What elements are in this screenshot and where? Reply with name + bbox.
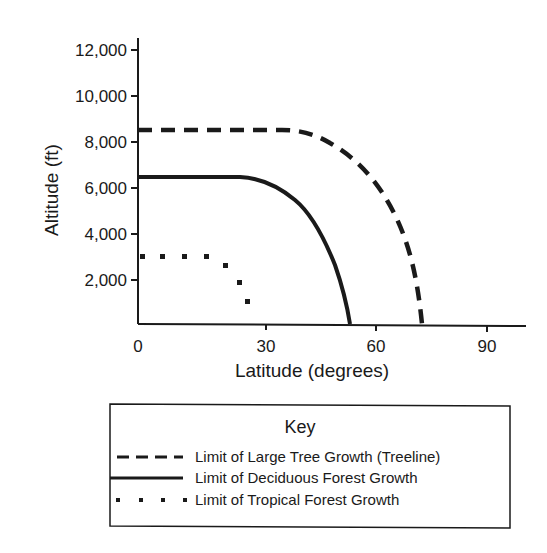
x-tick-label: 90 xyxy=(478,337,497,356)
series-tropical xyxy=(140,254,250,304)
x-tick-label: 0 xyxy=(133,337,142,356)
legend-label-treeline: Limit of Large Tree Growth (Treeline) xyxy=(195,448,440,465)
x-tick-label: 30 xyxy=(257,337,276,356)
x-axis-title: Latitude (degrees) xyxy=(235,360,389,381)
series-deciduous xyxy=(138,177,350,324)
legend-label-deciduous: Limit of Deciduous Forest Growth xyxy=(195,469,418,486)
series-treeline xyxy=(138,130,422,324)
legend-label-tropical: Limit of Tropical Forest Growth xyxy=(195,491,399,508)
chart: 12,000 10,000 8,000 6,000 4,000 2,000 0 … xyxy=(0,0,547,553)
y-axis-title: Altitude (ft) xyxy=(41,144,62,236)
legend-swatch-dotted xyxy=(116,498,187,502)
y-tick-label: 12,000 xyxy=(75,41,127,60)
y-tick-label: 10,000 xyxy=(75,87,127,106)
y-tick-labels: 12,000 10,000 8,000 6,000 4,000 2,000 xyxy=(75,41,127,290)
x-axis-line xyxy=(138,324,526,326)
legend-title: Key xyxy=(284,417,315,437)
y-tick-label: 2,000 xyxy=(84,271,127,290)
y-tick-label: 8,000 xyxy=(84,133,127,152)
x-tick-label: 60 xyxy=(367,337,386,356)
legend: Key Limit of Large Tree Growth (Treeline… xyxy=(110,404,510,528)
axes xyxy=(131,38,526,332)
y-tick-label: 4,000 xyxy=(84,225,127,244)
x-tick-labels: 0 30 60 90 xyxy=(133,337,496,356)
y-tick-label: 6,000 xyxy=(84,179,127,198)
